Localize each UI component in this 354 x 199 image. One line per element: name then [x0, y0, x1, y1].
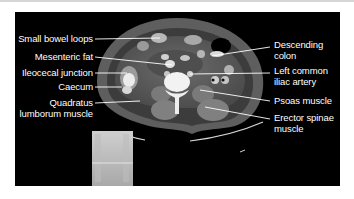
label-iliac-line1: Left common — [274, 65, 328, 76]
label-descending-line2: colon — [274, 50, 323, 61]
label-psoas-muscle: Psoas muscle — [274, 95, 332, 106]
label-quadratus-line2: lumborum muscle — [20, 108, 93, 119]
label-descending-colon: Descending colon — [274, 39, 323, 61]
ct-figure-panel: Small bowel loops Mesenteric fat Ileocec… — [15, 12, 340, 186]
label-erector-spinae-muscle: Erector spinae muscle — [274, 112, 334, 134]
label-descending-line1: Descending — [274, 39, 323, 50]
label-quadratus-lumborum: Quadratus lumborum muscle — [20, 97, 93, 119]
body-cross-section — [97, 18, 263, 134]
label-iliac-line2: iliac artery — [274, 76, 328, 87]
top-border-rule — [0, 0, 354, 2]
label-small-bowel-loops: Small bowel loops — [18, 33, 93, 44]
scout-localizer-image — [92, 131, 133, 186]
label-erector-line1: Erector spinae — [274, 112, 334, 123]
label-erector-line2: muscle — [274, 123, 334, 134]
label-left-common-iliac-artery: Left common iliac artery — [274, 65, 328, 87]
label-mesenteric-fat: Mesenteric fat — [35, 51, 93, 62]
label-caecum: Caecum — [58, 81, 93, 92]
label-quadratus-line1: Quadratus — [20, 97, 93, 108]
label-ileocecal-junction: Ileocecal junction — [22, 67, 93, 78]
